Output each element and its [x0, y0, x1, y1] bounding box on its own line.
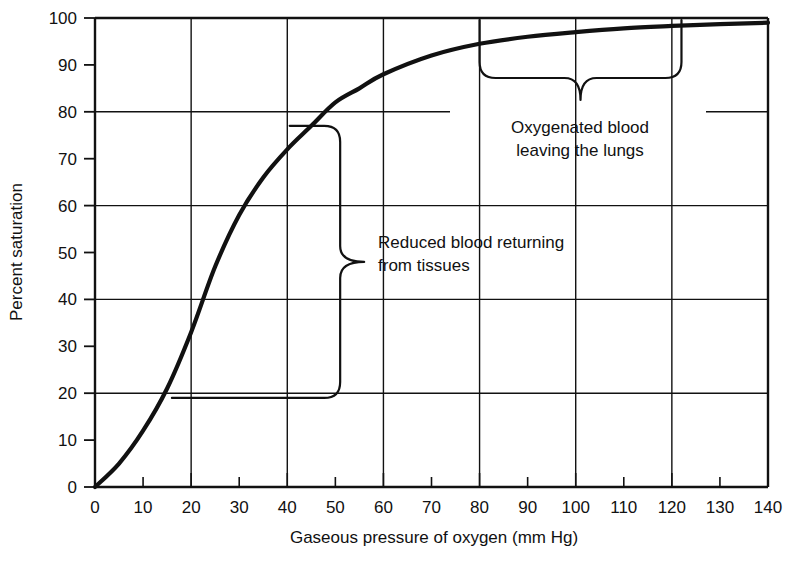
- x-axis-tick-label: 130: [706, 498, 734, 517]
- y-axis-tick-label: 90: [58, 56, 77, 75]
- y-axis-tick-label: 0: [68, 478, 77, 497]
- x-axis-tick-label: 110: [610, 498, 637, 517]
- x-axis-title: Gaseous pressure of oxygen (mm Hg): [290, 528, 578, 547]
- x-axis-tick-label: 10: [134, 498, 153, 517]
- oxygen-dissociation-curve-figure: 0102030405060708090100110120130140 01020…: [0, 0, 799, 574]
- y-axis-tick-label: 30: [58, 337, 77, 356]
- y-axis-tick-label: 100: [49, 9, 77, 28]
- y-axis-tick-label: 20: [58, 384, 77, 403]
- y-axis-tick-label: 40: [58, 290, 77, 309]
- x-axis-tick-label: 30: [230, 498, 249, 517]
- y-axis-tick-label: 70: [58, 150, 77, 169]
- x-axis-tick-label: 0: [90, 498, 99, 517]
- y-axis-tick-label: 10: [58, 431, 77, 450]
- x-axis-tick-label: 40: [278, 498, 297, 517]
- x-axis-tick-label: 60: [374, 498, 393, 517]
- x-axis-tick-label: 70: [422, 498, 441, 517]
- x-axis-tick-label: 20: [182, 498, 201, 517]
- y-axis-title: Percent saturation: [7, 183, 26, 321]
- lower-annotation-line1: Reduced blood returning: [378, 233, 564, 252]
- x-axis-tick-label: 140: [754, 498, 782, 517]
- chart-svg: 0102030405060708090100110120130140 01020…: [0, 0, 799, 574]
- lower-annotation-line2: from tissues: [378, 256, 470, 275]
- y-axis-tick-label: 60: [58, 197, 77, 216]
- x-axis-tick-label: 90: [518, 498, 537, 517]
- x-axis-tick-labels: 0102030405060708090100110120130140: [90, 498, 782, 517]
- upper-annotation-line1: Oxygenated blood: [511, 118, 649, 137]
- x-axis-tick-label: 50: [326, 498, 345, 517]
- x-axis-tick-label: 80: [470, 498, 489, 517]
- upper-annotation-line2: leaving the lungs: [516, 141, 644, 160]
- y-axis-tick-label: 80: [58, 103, 77, 122]
- x-axis-tick-label: 120: [658, 498, 686, 517]
- y-axis-tick-label: 50: [58, 244, 77, 263]
- x-axis-tick-label: 100: [562, 498, 590, 517]
